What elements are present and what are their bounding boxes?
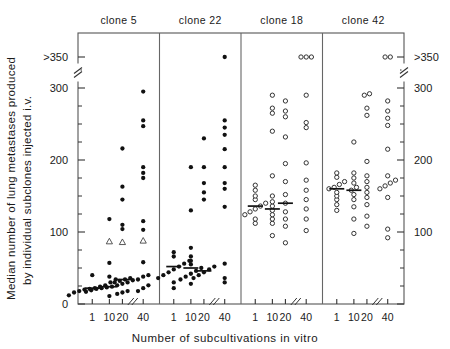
- y-tick-label-300-left: 300: [50, 82, 68, 94]
- data-point-open: [253, 217, 257, 221]
- data-point-filled: [120, 146, 124, 150]
- panel-title-1: clone 22: [179, 14, 222, 26]
- data-point-filled: [125, 289, 129, 293]
- data-point-filled: [89, 288, 93, 292]
- data-point-filled: [146, 273, 150, 277]
- data-point-open: [270, 194, 274, 198]
- data-point-filled: [136, 277, 140, 281]
- data-point-open: [352, 140, 356, 144]
- data-point-filled: [202, 190, 206, 194]
- x-tick-label-3-1: 1: [334, 311, 340, 323]
- data-point-open: [309, 55, 313, 59]
- data-point-open: [335, 202, 339, 206]
- data-point-open: [304, 197, 308, 201]
- data-point-open: [304, 207, 308, 211]
- data-point-open: [335, 190, 339, 194]
- data-point-open: [270, 221, 274, 225]
- data-point-filled: [223, 205, 227, 209]
- data-point-open: [365, 224, 369, 228]
- x-tick-label-3-20: 20: [361, 311, 373, 323]
- x-tick-label-2-10: 10: [267, 311, 279, 323]
- y-tick-label-200-left: 200: [50, 154, 68, 166]
- data-point-open: [365, 113, 369, 117]
- data-point-open: [342, 179, 346, 183]
- data-point-open: [365, 174, 369, 178]
- data-point-open: [393, 178, 397, 182]
- data-point-open: [352, 181, 356, 185]
- data-point-filled: [141, 228, 145, 232]
- data-point-open: [386, 195, 390, 199]
- data-point-filled: [189, 282, 193, 286]
- data-point-filled: [94, 287, 98, 291]
- x-tick-label-0-1: 1: [89, 311, 95, 323]
- data-point-open: [270, 213, 274, 217]
- data-point-filled: [141, 219, 145, 223]
- data-point-open: [352, 231, 356, 235]
- data-point-open: [365, 179, 369, 183]
- data-point-filled: [197, 273, 201, 277]
- data-point-filled: [223, 262, 227, 266]
- data-point-open: [270, 217, 274, 221]
- data-point-filled: [72, 290, 76, 294]
- y-tick-label-0: 0: [62, 298, 68, 310]
- data-point-open: [283, 241, 287, 245]
- data-point-open: [270, 129, 274, 133]
- data-point-open: [386, 236, 390, 240]
- data-point-open: [352, 171, 356, 175]
- data-point-filled: [223, 280, 227, 284]
- data-point-open: [283, 135, 287, 139]
- data-point-filled: [172, 250, 176, 254]
- data-point-open: [304, 228, 308, 232]
- data-point-filled: [107, 294, 111, 298]
- data-point-open: [299, 55, 303, 59]
- data-point-open: [365, 185, 369, 189]
- data-point-filled: [189, 246, 193, 250]
- y-tick-label-200-right: 200: [414, 154, 432, 166]
- data-point-filled: [120, 227, 124, 231]
- data-point-open: [248, 210, 252, 214]
- data-point-filled: [189, 254, 193, 258]
- data-point-open: [270, 174, 274, 178]
- data-point-open: [365, 106, 369, 110]
- scatter-plot-svg: 0100100200200300300>350>350clone 5110204…: [0, 0, 450, 349]
- data-point-filled: [141, 171, 145, 175]
- x-tick-label-1-10: 10: [185, 311, 197, 323]
- data-point-filled: [202, 181, 206, 185]
- x-tick-label-1-40: 40: [219, 311, 231, 323]
- data-point-open: [270, 204, 274, 208]
- data-point-open: [386, 227, 390, 231]
- data-point-open: [264, 201, 268, 205]
- data-point-filled: [212, 264, 216, 268]
- data-point-open: [386, 174, 390, 178]
- data-point-open: [386, 109, 390, 113]
- data-point-filled: [172, 280, 176, 284]
- data-point-filled: [107, 261, 111, 265]
- data-point-filled: [141, 89, 145, 93]
- data-point-filled: [141, 176, 145, 180]
- data-point-open: [337, 182, 341, 186]
- data-point-filled: [112, 280, 116, 284]
- data-point-open: [335, 175, 339, 179]
- data-point-open: [386, 147, 390, 151]
- data-point-open: [386, 116, 390, 120]
- data-point-open: [352, 192, 356, 196]
- data-point-filled: [172, 267, 176, 271]
- data-point-open: [283, 217, 287, 221]
- y-tick-label-300-right: 300: [414, 82, 432, 94]
- data-point-open: [283, 224, 287, 228]
- data-point-open: [243, 213, 247, 217]
- data-point-open: [386, 99, 390, 103]
- data-point-open: [270, 93, 274, 97]
- data-point-filled: [108, 280, 112, 284]
- data-point-filled: [166, 270, 170, 274]
- data-point-filled: [136, 289, 140, 293]
- data-point-open: [354, 185, 358, 189]
- data-point-filled: [223, 125, 227, 129]
- y-tick-label-100-left: 100: [50, 226, 68, 238]
- panel-title-2: clone 18: [260, 14, 303, 26]
- x-tick-label-1-20: 20: [198, 311, 210, 323]
- data-point-open: [383, 184, 387, 188]
- data-point-filled: [161, 273, 165, 277]
- data-point-triangle: [106, 238, 112, 244]
- data-point-filled: [141, 286, 145, 290]
